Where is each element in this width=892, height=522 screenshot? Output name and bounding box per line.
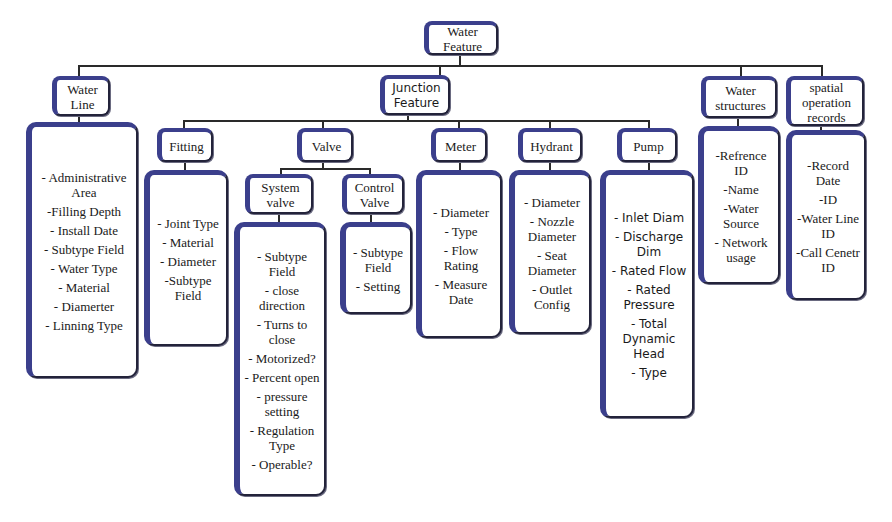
attribute-item: - Network usage — [708, 235, 774, 265]
attribute-item: - Subtype Field — [244, 249, 320, 279]
connector-valve-bus — [280, 168, 370, 170]
node-junction-feature: Junction Feature — [380, 75, 450, 115]
connector-junction-bus — [183, 120, 650, 122]
node-label: Hydrant — [530, 139, 573, 154]
attribute-item: -Record Date — [796, 158, 860, 188]
connector-level1-bus — [78, 65, 823, 67]
node-pump: Pump — [617, 128, 677, 162]
attribute-item: - Material — [162, 235, 214, 250]
attribute-item: -Filling Depth — [47, 204, 121, 219]
attribute-item: - Regulation Type — [244, 423, 320, 453]
attributes-water-line: - Administrative Area -Filling Depth - I… — [26, 122, 138, 378]
node-label: Water Feature — [432, 24, 493, 54]
attribute-item: - Administrative Area — [36, 170, 132, 200]
node-control-valve: Control Valve — [342, 174, 404, 214]
attribute-item: - Outlet Config — [519, 282, 585, 312]
attribute-item: - Install Date — [50, 223, 118, 238]
attribute-item: -Subtype Field — [154, 273, 222, 303]
attributes-fitting: - Joint Type - Material - Diameter -Subt… — [144, 170, 228, 346]
attribute-item: - Diameter — [433, 205, 489, 220]
node-water-structures: Water structures — [701, 76, 777, 118]
node-label: Water structures — [709, 83, 772, 113]
node-valve: Valve — [297, 128, 353, 162]
node-label: Control Valve — [350, 180, 399, 210]
attribute-item: - Rated Pressure — [610, 283, 688, 313]
attribute-item: - Joint Type — [157, 216, 219, 231]
attribute-item: -Name — [723, 182, 758, 197]
attribute-item: - Diameter — [160, 254, 216, 269]
node-system-valve: System valve — [245, 174, 313, 214]
node-meter: Meter — [431, 128, 487, 162]
node-fitting: Fitting — [157, 128, 213, 162]
node-spatial-operation-records: spatial operation records — [786, 76, 864, 126]
node-label: System valve — [253, 180, 308, 210]
node-label: spatial operation records — [794, 80, 859, 125]
node-label: Valve — [312, 139, 342, 154]
attribute-item: - Water Type — [51, 261, 118, 276]
attribute-item: - Setting — [356, 279, 400, 294]
root-node-water-feature: Water Feature — [424, 21, 498, 55]
node-label: Meter — [445, 139, 476, 154]
attribute-item: - Inlet Diam — [614, 211, 684, 226]
attribute-item: - Operable? — [252, 457, 313, 472]
attributes-hydrant: - Diameter - Nozzle Diameter - Seat Diam… — [509, 170, 591, 334]
node-hydrant: Hydrant — [518, 128, 582, 162]
attributes-meter: - Diameter - Type - Flow Rating - Measur… — [416, 170, 502, 338]
attribute-item: - Seat Diameter — [519, 248, 585, 278]
attribute-item: -Water Line ID — [796, 211, 860, 241]
attribute-item: - Turns to close — [244, 317, 320, 347]
attribute-item: - Rated Flow — [612, 264, 686, 279]
attributes-pump: - Inlet Diam - Discharge Dim - Rated Flo… — [600, 170, 694, 418]
attribute-item: - Subtype Field — [350, 245, 406, 275]
node-label: Junction Feature — [388, 81, 445, 111]
attribute-item: -Call Cenetr ID — [796, 245, 860, 275]
attribute-item: - pressure setting — [244, 389, 320, 419]
attribute-item: - Subtype Field — [44, 242, 124, 257]
attributes-system-valve: - Subtype Field - close direction - Turn… — [234, 222, 326, 496]
attribute-item: - Total Dynamic Head — [610, 317, 688, 362]
attribute-item: - Linning Type — [45, 318, 123, 333]
attribute-item: - close direction — [244, 283, 320, 313]
attributes-spatial-operation-records: -Record Date -ID -Water Line ID -Call Ce… — [786, 130, 866, 300]
node-label: Water Line — [60, 82, 105, 112]
attribute-item: - Diameter — [524, 195, 580, 210]
attribute-item: - Flow Rating — [426, 243, 496, 273]
attribute-item: - Motorized? — [248, 351, 316, 366]
attribute-item: -ID — [819, 192, 837, 207]
attribute-item: - Material — [58, 280, 110, 295]
attributes-control-valve: - Subtype Field - Setting — [340, 222, 412, 314]
node-water-line: Water Line — [52, 76, 110, 116]
attributes-water-structures: -Refrence ID -Name -Water Source - Netwo… — [698, 126, 780, 284]
attribute-item: - Type — [631, 366, 667, 381]
attribute-item: - Type — [444, 224, 477, 239]
attribute-item: -Refrence ID — [708, 148, 774, 178]
attribute-item: - Nozzle Diameter — [519, 214, 585, 244]
attribute-item: - Discharge Dim — [610, 230, 688, 260]
node-label: Fitting — [169, 139, 204, 154]
attribute-item: -Water Source — [708, 201, 774, 231]
attribute-item: - Measure Date — [426, 277, 496, 307]
attribute-item: - Diamerter — [54, 299, 114, 314]
node-label: Pump — [633, 139, 663, 154]
attribute-item: - Percent open — [244, 370, 319, 385]
